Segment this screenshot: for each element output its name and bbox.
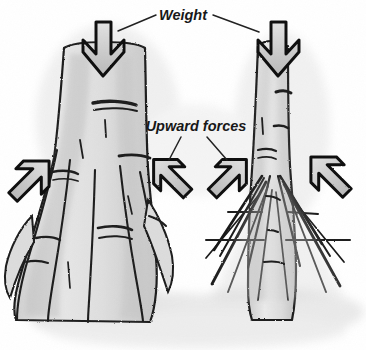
upward-forces-label: Upward forces: [146, 118, 247, 134]
tree-forces-illustration: Weight Upward forces: [0, 0, 366, 350]
weight-leader-right: [213, 15, 259, 32]
weight-label: Weight: [159, 7, 208, 23]
figure-canvas: Weight Upward forces: [0, 0, 366, 350]
weight-leader-left: [118, 15, 156, 31]
